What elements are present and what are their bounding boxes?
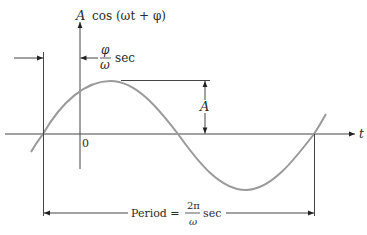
phase-label-denominator: ω bbox=[100, 58, 110, 72]
phase-label-numerator: φ bbox=[101, 43, 110, 57]
time-axis-label: t bbox=[359, 127, 364, 141]
function-label-amplitude: A bbox=[75, 8, 85, 23]
period-label-numerator: 2π bbox=[187, 200, 200, 211]
amplitude-label: A bbox=[199, 99, 209, 114]
origin-label: 0 bbox=[82, 137, 89, 150]
period-label-prefix: Period = bbox=[131, 207, 180, 220]
function-label-expression: cos (ωt + φ) bbox=[92, 9, 166, 23]
period-label-unit: sec bbox=[203, 207, 221, 220]
phase-label-unit: sec bbox=[115, 51, 135, 65]
sinusoid-diagram: t A cos (ωt + φ) 0 φ ω sec A Period = 2π… bbox=[0, 0, 367, 235]
cosine-curve bbox=[31, 81, 326, 190]
period-label-denominator: ω bbox=[189, 216, 197, 227]
